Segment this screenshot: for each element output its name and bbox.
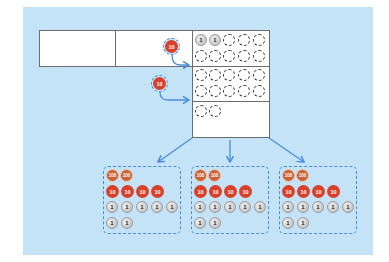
one-counter: 1 [297,201,309,213]
hundred-counter: 100 [282,169,295,182]
ten-counter: 10 [297,185,310,198]
hundred-counter: 100 [120,169,133,182]
one-counter: 1 [121,201,133,213]
split-arrow-left [158,138,192,162]
one-counter: 1 [166,201,178,213]
one-counter: 1 [327,201,339,213]
hundred-counter: 100 [106,169,119,182]
one-counter: 1 [121,217,133,229]
exchange-arrow-1 [172,55,189,65]
one-counter: 1 [194,217,206,229]
one-counter: 1 [224,201,236,213]
one-counter: 1 [136,201,148,213]
exchange-arrow-2 [160,92,189,100]
one-counter: 1 [194,201,206,213]
ten-counter: 10 [209,185,222,198]
split-arrow-right [269,138,304,162]
one-counter: 1 [209,201,221,213]
hundred-counter: 100 [296,169,309,182]
ten-counter: 10 [106,185,119,198]
ten-counter: 10 [312,185,325,198]
one-counter: 1 [106,201,118,213]
ten-counter: 10 [194,185,207,198]
ten-counter: 10 [239,185,252,198]
one-counter: 1 [254,201,266,213]
one-counter: 1 [106,217,118,229]
one-counter: 1 [312,201,324,213]
hundred-counter: 100 [208,169,221,182]
one-counter: 1 [209,217,221,229]
ten-counter: 10 [327,185,340,198]
ten-counter: 10 [151,185,164,198]
one-counter: 1 [282,217,294,229]
ten-counter: 10 [121,185,134,198]
ten-counter: 10 [224,185,237,198]
ten-counter: 10 [282,185,295,198]
one-counter: 1 [297,217,309,229]
one-counter: 1 [282,201,294,213]
one-counter: 1 [239,201,251,213]
ten-counter: 10 [136,185,149,198]
hundred-counter: 100 [194,169,207,182]
one-counter: 1 [151,201,163,213]
one-counter: 1 [342,201,354,213]
